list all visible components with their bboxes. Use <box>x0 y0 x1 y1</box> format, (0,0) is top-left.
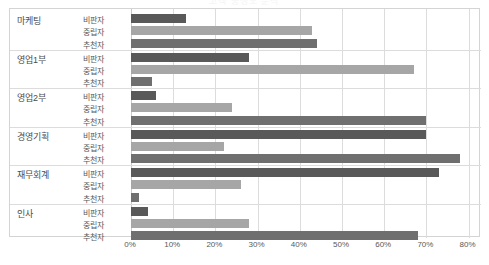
bars-layer <box>10 9 481 238</box>
bar-promoter <box>131 231 418 240</box>
bar-neutral <box>131 65 414 74</box>
bar-neutral <box>131 219 249 228</box>
bar-neutral <box>131 142 224 151</box>
bar-critic <box>131 91 156 100</box>
x-tick-label: 40% <box>291 240 307 249</box>
bar-promoter <box>131 77 152 86</box>
bar-neutral <box>131 180 241 189</box>
bar-critic <box>131 207 148 216</box>
bar-critic <box>131 14 186 23</box>
x-tick-label: 80% <box>460 240 476 249</box>
plot-area: 마케팅비판자중립자추천자영업1부비판자중립자추천자영업2부비판자중립자추천자경영… <box>9 8 480 237</box>
bar-critic <box>131 130 426 139</box>
bar-neutral <box>131 26 312 35</box>
x-tick-label: 60% <box>375 240 391 249</box>
x-tick-label: 70% <box>417 240 433 249</box>
x-tick-label: 20% <box>206 240 222 249</box>
x-tick-label: 30% <box>249 240 265 249</box>
x-tick-label: 0% <box>124 240 136 249</box>
x-axis-tick-labels: 0%10%20%30%40%50%60%70%80% <box>9 240 480 256</box>
bar-promoter <box>131 39 317 48</box>
bar-promoter <box>131 154 460 163</box>
x-tick-label: 50% <box>333 240 349 249</box>
bar-critic <box>131 53 249 62</box>
bar-promoter <box>131 116 426 125</box>
bar-chart: 고객 충성도 분석 마케팅비판자중립자추천자영업1부비판자중립자추천자영업2부비… <box>0 0 489 265</box>
chart-title: 고객 충성도 분석 <box>0 0 489 5</box>
bar-promoter <box>131 193 139 202</box>
bar-critic <box>131 168 439 177</box>
x-tick-label: 10% <box>164 240 180 249</box>
bar-neutral <box>131 103 232 112</box>
